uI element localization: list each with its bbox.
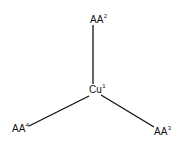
label-aa3: AA3	[154, 127, 171, 137]
label-aa2-sup: 2	[104, 13, 107, 19]
label-aa4: AA4	[12, 124, 29, 134]
label-aa3-base: AA	[154, 126, 167, 137]
label-cu1-sup: 1	[102, 83, 105, 89]
label-cu1: Cu1	[89, 85, 106, 95]
bond-bottom-left	[29, 96, 89, 126]
label-aa2: AA2	[90, 15, 107, 25]
label-aa3-sup: 3	[168, 125, 171, 131]
label-aa4-sup: 4	[26, 122, 29, 128]
label-aa2-base: AA	[90, 14, 103, 25]
bond-bottom-right	[101, 95, 154, 127]
label-cu1-base: Cu	[89, 84, 102, 95]
label-aa4-base: AA	[12, 123, 25, 134]
